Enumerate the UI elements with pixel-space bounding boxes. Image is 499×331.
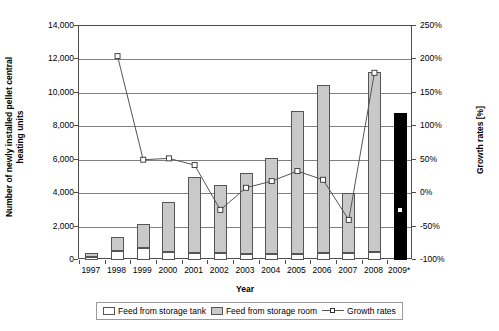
growth-rate-line-series	[79, 26, 413, 260]
growth-rate-marker	[372, 70, 377, 75]
x-axis-tick	[362, 260, 363, 264]
legend-swatch-growth-rates	[322, 307, 344, 315]
x-axis-tick-label: 2002	[206, 265, 232, 275]
x-axis-tick-label: 2008	[361, 265, 387, 275]
x-axis-tick-label: 2003	[232, 265, 258, 275]
y-axis-right-tick-label: 150%	[420, 87, 464, 97]
growth-rate-marker	[141, 157, 146, 162]
x-axis-tick	[387, 260, 388, 264]
y-axis-right-title: Growth rates [%]	[468, 80, 492, 210]
x-axis-tick-label: 2009*	[386, 265, 412, 275]
legend-label-storage-room: Feed from storage room	[226, 306, 317, 316]
y-axis-right-tick-label: -50%	[420, 221, 464, 231]
legend-swatch-storage-tank	[103, 307, 115, 315]
x-axis-title: Year	[78, 284, 412, 294]
growth-rate-marker	[295, 169, 300, 174]
y-axis-left-tick-label: 0	[28, 254, 74, 264]
x-axis-tick	[130, 260, 131, 264]
x-axis-tick	[207, 260, 208, 264]
x-axis-tick	[310, 260, 311, 264]
growth-rate-marker	[166, 156, 171, 161]
y-axis-left-tick-label: 14,000	[28, 20, 74, 30]
x-axis-tick	[336, 260, 337, 264]
growth-rate-marker-forecast	[398, 208, 402, 212]
growth-rate-marker	[244, 185, 249, 190]
y-axis-right-tick-label: 200%	[420, 53, 464, 63]
growth-rate-marker	[321, 177, 326, 182]
x-axis-tick	[259, 260, 260, 264]
y-axis-right-tick-label: 50%	[420, 154, 464, 164]
y-axis-right-tick-label: 0%	[420, 187, 464, 197]
x-axis-tick	[156, 260, 157, 264]
growth-rate-marker	[218, 207, 223, 212]
chart-legend: Feed from storage tank Feed from storage…	[96, 302, 403, 320]
y-axis-right-tick-label: 250%	[420, 20, 464, 30]
y-axis-left-tick-label: 12,000	[28, 53, 74, 63]
plot-area	[78, 25, 412, 259]
x-axis-tick	[105, 260, 106, 264]
x-axis-tick-label: 2005	[284, 265, 310, 275]
x-axis-tick-label: 1998	[104, 265, 130, 275]
y-axis-left-tick-label: 6,000	[28, 154, 74, 164]
x-axis-tick-label: 1999	[129, 265, 155, 275]
x-axis-tick-label: 2004	[258, 265, 284, 275]
growth-rate-marker	[346, 217, 351, 222]
x-axis-tick-label: 2007	[335, 265, 361, 275]
y-axis-right-tick-label: -100%	[420, 254, 464, 264]
x-axis-tick	[79, 260, 80, 264]
legend-item-growth-rates: Growth rates	[322, 306, 396, 316]
y-axis-left-tick-label: 4,000	[28, 187, 74, 197]
x-axis-tick	[285, 260, 286, 264]
y-axis-left-tick-label: 8,000	[28, 120, 74, 130]
legend-label-growth-rates: Growth rates	[347, 306, 396, 316]
y-axis-right-tick-label: 100%	[420, 120, 464, 130]
legend-item-storage-tank: Feed from storage tank	[103, 306, 206, 316]
legend-swatch-storage-room	[211, 307, 223, 315]
x-axis-tick-label: 2001	[181, 265, 207, 275]
y-axis-left-tick	[74, 259, 78, 260]
legend-label-storage-tank: Feed from storage tank	[118, 306, 206, 316]
growth-rate-marker	[115, 54, 120, 59]
legend-item-storage-room: Feed from storage room	[211, 306, 317, 316]
x-axis-tick-label: 1997	[78, 265, 104, 275]
y-axis-left-tick-label: 2,000	[28, 221, 74, 231]
y-axis-left-title: Number of newly installed pellet central…	[2, 44, 28, 234]
growth-rate-marker	[269, 179, 274, 184]
chart-figure: Number of newly installed pellet central…	[0, 0, 499, 331]
x-axis-tick-label: 2000	[155, 265, 181, 275]
x-axis-tick	[182, 260, 183, 264]
x-axis-tick-label: 2006	[309, 265, 335, 275]
y-axis-left-tick-label: 10,000	[28, 87, 74, 97]
growth-rate-marker	[192, 163, 197, 168]
x-axis-tick	[233, 260, 234, 264]
